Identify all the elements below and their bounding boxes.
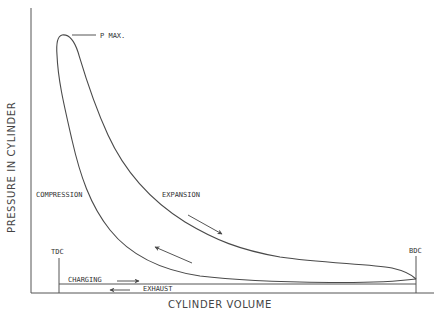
exhaust-label: EXHAUST <box>143 285 173 293</box>
tdc-label: TDC <box>51 248 64 256</box>
expansion-arrow-icon <box>188 215 222 234</box>
compression-label: COMPRESSION <box>36 191 82 199</box>
pv-diagram: PRESSURE IN CYLINDER CYLINDER VOLUME TDC… <box>0 0 442 311</box>
compression-curve <box>57 35 416 283</box>
expansion-label: EXPANSION <box>162 191 200 199</box>
compression-arrow-icon <box>155 247 192 263</box>
y-axis-label: PRESSURE IN CYLINDER <box>6 102 17 233</box>
charging-label: CHARGING <box>68 276 102 284</box>
p-max-label: P MAX. <box>100 32 125 40</box>
x-axis-label: CYLINDER VOLUME <box>168 299 272 310</box>
expansion-curve <box>62 35 416 279</box>
bdc-label: BDC <box>409 247 422 255</box>
